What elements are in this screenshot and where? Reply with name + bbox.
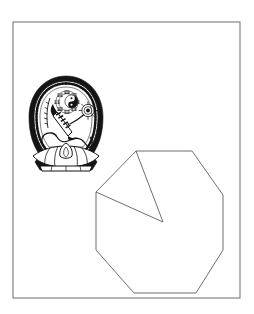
drawing-page: Scanned line drawing page Tibetan lotus … [0, 0, 254, 314]
tibetan-lotus-emblem [29, 76, 103, 171]
drawing-canvas [0, 0, 254, 314]
taijitu-icon [65, 95, 78, 108]
